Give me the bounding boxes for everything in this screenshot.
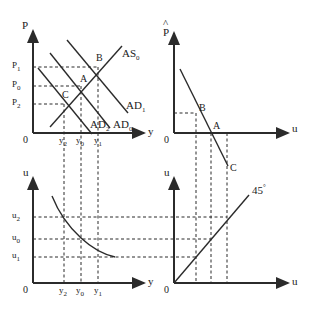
tr-origin-label: 0 xyxy=(164,135,169,145)
bl-xtick-y2: y2 xyxy=(59,286,67,298)
tr-point-b: B xyxy=(199,103,206,113)
forty-five-degree-line xyxy=(174,195,249,283)
tl-point-a: A xyxy=(80,74,87,84)
phat-hat-icon: ^ xyxy=(163,18,168,29)
tl-origin-label: 0 xyxy=(23,135,28,145)
br-x-axis-label: u xyxy=(292,276,298,287)
forty-five-degree-label: 45° xyxy=(252,184,266,196)
tl-point-c: C xyxy=(62,90,69,100)
bl-xtick-y1: y1 xyxy=(94,286,102,298)
tl-ytick-p0: P0 xyxy=(12,80,21,92)
quadrant-bottom-left xyxy=(33,178,227,283)
bl-origin-label: 0 xyxy=(23,285,28,295)
ad1-label: AD1 xyxy=(126,100,145,114)
bl-xtick-y0: y0 xyxy=(76,286,84,298)
tr-point-c: C xyxy=(230,163,237,173)
br-y-axis-label: u xyxy=(164,167,170,178)
tr-x-axis-label: u xyxy=(292,123,298,134)
tr-y-axis-label-wrap: ^P xyxy=(163,27,169,38)
quadrant-top-left xyxy=(33,31,144,283)
quadrant-bottom-right xyxy=(174,178,288,283)
ad0-label: AD0 xyxy=(113,119,132,133)
figure-canvas xyxy=(0,0,310,316)
bl-x-axis-label: y xyxy=(148,276,154,287)
tl-ytick-p1: P1 xyxy=(12,61,21,73)
br-origin-label: 0 xyxy=(164,285,169,295)
tl-xtick-y2: y2 xyxy=(59,136,67,148)
tl-xtick-y0: y0 xyxy=(76,136,84,148)
bl-ytick-u2: u2 xyxy=(12,211,20,223)
ad2-label: AD2 xyxy=(90,119,109,133)
tl-xtick-y1: y1 xyxy=(94,136,102,148)
tr-point-a: A xyxy=(213,121,220,131)
phillips-curve xyxy=(180,69,228,166)
economics-four-quadrant-figure: P y 0 P1 P0 P2 y2 y0 y1 AS0 AD1 AD0 AD2 … xyxy=(0,0,310,316)
bl-y-axis-label: u xyxy=(23,167,29,178)
okun-curve xyxy=(52,196,115,257)
tl-ytick-p2: P2 xyxy=(12,98,21,110)
bl-ytick-u1: u1 xyxy=(12,251,20,263)
quadrant-top-right xyxy=(174,33,288,283)
tl-point-b: B xyxy=(96,53,103,63)
tl-y-axis-label: P xyxy=(22,20,28,31)
bl-ytick-u0: u0 xyxy=(12,233,20,245)
tl-x-axis-label: y xyxy=(148,126,154,137)
as0-label: AS0 xyxy=(122,48,140,62)
